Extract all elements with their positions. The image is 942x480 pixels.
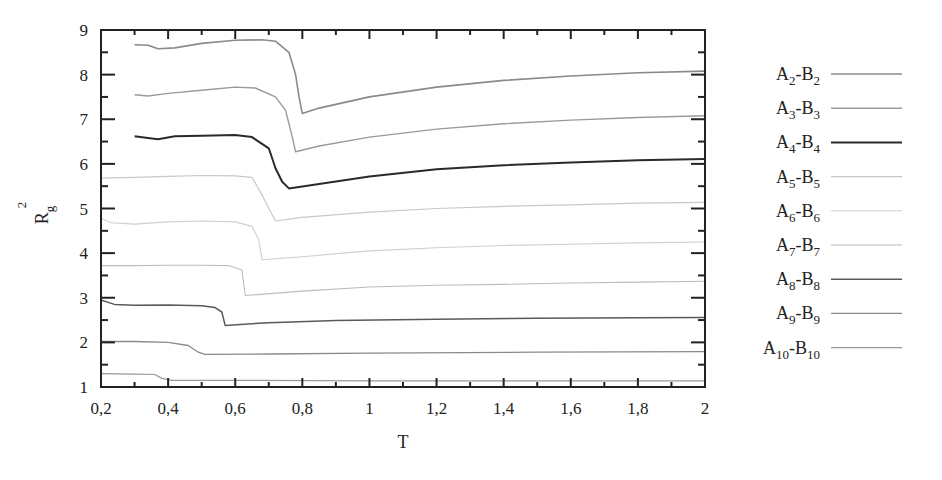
y-tick-label: 4 xyxy=(80,244,89,263)
y-axis-title: Rg xyxy=(32,205,57,224)
y-axis-title-base: R xyxy=(32,212,52,224)
series-line-a8-b8 xyxy=(101,300,705,325)
legend-label: A5-B5 xyxy=(776,167,820,191)
y-tick-label: 2 xyxy=(80,333,89,352)
plot-lines xyxy=(101,40,705,381)
y-axis-title-sub: g xyxy=(42,205,57,212)
y-tick-label: 5 xyxy=(80,200,89,219)
series-line-a5-b5 xyxy=(101,176,705,222)
x-tick-label: 1,6 xyxy=(560,399,581,418)
series-line-a3-b3 xyxy=(135,87,705,152)
y-tick-label: 3 xyxy=(80,289,89,308)
x-tick-label: 0,4 xyxy=(157,399,179,418)
tick-labels: 0,20,40,60,811,21,41,61,82123456789 xyxy=(80,21,710,418)
legend-label: A9-B9 xyxy=(776,303,820,327)
series-line-a2-b2 xyxy=(135,40,705,114)
legend-label: A7-B7 xyxy=(776,235,821,259)
y-tick-label: 9 xyxy=(80,21,89,40)
y-tick-label: 6 xyxy=(80,155,89,174)
y-tick-label: 7 xyxy=(80,110,89,129)
legend-label: A3-B3 xyxy=(776,98,820,122)
x-tick-label: 0,6 xyxy=(225,399,246,418)
series-line-a6-b6 xyxy=(101,218,705,259)
x-tick-label: 1,2 xyxy=(426,399,447,418)
y-axis-title-sup: 2 xyxy=(14,202,29,209)
legend-label: A2-B2 xyxy=(776,64,820,88)
legend: A2-B2A3-B3A4-B4A5-B5A6-B6A7-B7A8-B8A9-B9… xyxy=(763,64,902,362)
x-tick-label: 1,4 xyxy=(493,399,515,418)
x-tick-label: 1 xyxy=(365,399,374,418)
x-tick-label: 0,8 xyxy=(292,399,313,418)
svg-text:Rg: Rg xyxy=(32,205,57,224)
x-tick-label: 0,2 xyxy=(90,399,111,418)
y-tick-label: 8 xyxy=(80,66,89,85)
legend-label: A6-B6 xyxy=(776,201,821,225)
series-line-a9-b9 xyxy=(101,342,705,355)
series-line-a7-b7 xyxy=(101,265,705,295)
legend-label: A4-B4 xyxy=(776,132,821,156)
x-tick-label: 2 xyxy=(701,399,710,418)
plot-frame xyxy=(101,30,705,387)
legend-label: A10-B10 xyxy=(763,338,820,362)
x-tick-label: 1,8 xyxy=(627,399,648,418)
chart: 0,20,40,60,811,21,41,61,82123456789 T Rg… xyxy=(0,0,942,480)
y-tick-label: 1 xyxy=(80,378,89,397)
x-axis-title: T xyxy=(398,432,409,452)
axis-ticks xyxy=(101,30,705,387)
legend-label: A8-B8 xyxy=(776,269,820,293)
series-line-a4-b4 xyxy=(135,135,705,189)
series-line-a10-b10 xyxy=(101,374,705,381)
